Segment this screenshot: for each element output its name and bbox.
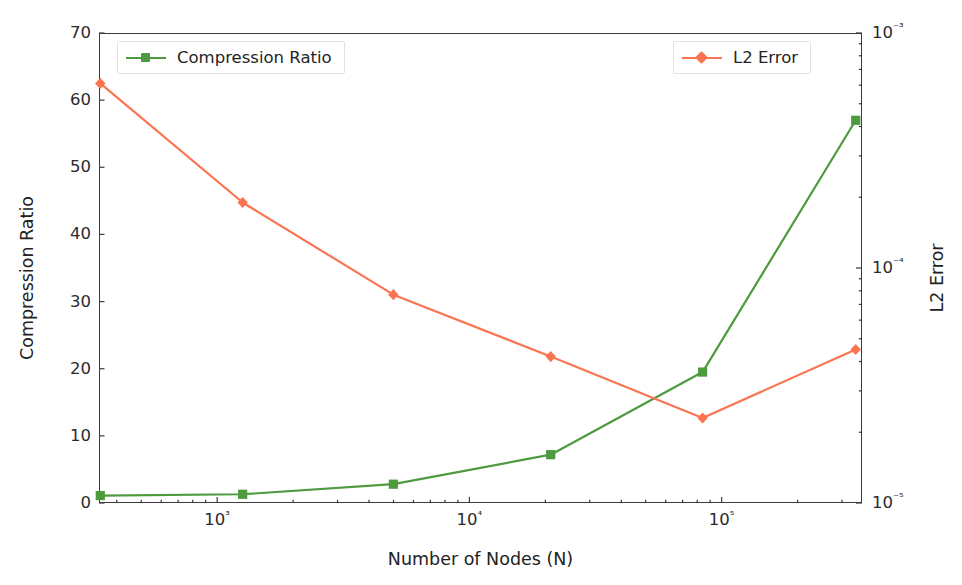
x-axis-ticks [117, 497, 842, 503]
left-tick-label: 20 [70, 360, 91, 377]
square-marker-icon [96, 491, 105, 500]
right-tick-label: 10⁻⁵ [872, 495, 904, 512]
x-tick-label: 10⁴ [457, 512, 483, 529]
chart-canvas [0, 0, 962, 585]
legend-l2-error[interactable]: L2 Error [673, 41, 811, 74]
square-marker-icon [389, 480, 398, 489]
square-marker-icon [851, 116, 860, 125]
left-tick-label: 60 [70, 92, 91, 109]
right-axis-title: L2 Error [927, 98, 947, 458]
legend-swatch-compression-ratio [126, 51, 166, 65]
x-axis-tick-labels: 10³10⁴10⁵ [0, 512, 962, 542]
x-tick-label: 10⁵ [709, 512, 735, 529]
left-tick-label: 70 [70, 25, 91, 42]
legend-label-l2-error: L2 Error [733, 48, 798, 67]
left-tick-label: 30 [70, 293, 91, 310]
legend-label-compression-ratio: Compression Ratio [177, 48, 332, 67]
left-axis-title: Compression Ratio [17, 98, 37, 458]
square-marker-icon [698, 367, 707, 376]
diamond-marker-icon [695, 51, 708, 64]
legend-compression-ratio[interactable]: Compression Ratio [117, 41, 345, 74]
diamond-marker-icon [851, 344, 861, 355]
left-axis-tick-labels: 010203040506070 [0, 0, 91, 585]
left-tick-label: 10 [70, 428, 91, 445]
chart-figure: 010203040506070 10⁻⁵10⁻⁴10⁻³ 10³10⁴10⁵ C… [0, 0, 962, 585]
diamond-marker-icon [546, 351, 556, 362]
right-axis-ticks [856, 33, 862, 503]
x-tick-label: 10³ [204, 512, 230, 529]
right-tick-label: 10⁻⁴ [872, 260, 904, 277]
square-marker-icon [238, 490, 247, 499]
square-marker-icon [546, 450, 555, 459]
diamond-marker-icon [697, 412, 707, 423]
left-tick-label: 0 [81, 495, 92, 512]
series-l2-error [95, 78, 861, 424]
series-compression-ratio [96, 116, 861, 501]
diamond-marker-icon [388, 289, 398, 300]
left-tick-label: 50 [70, 159, 91, 176]
x-axis-title: Number of Nodes (N) [99, 549, 862, 569]
legend-swatch-l2-error [682, 51, 722, 65]
square-marker-icon [141, 53, 150, 62]
left-tick-label: 40 [70, 226, 91, 243]
left-axis-ticks [99, 33, 105, 503]
right-tick-label: 10⁻³ [872, 25, 904, 42]
